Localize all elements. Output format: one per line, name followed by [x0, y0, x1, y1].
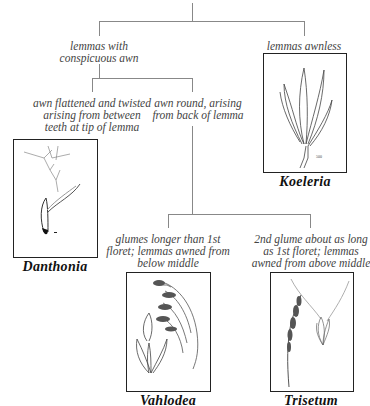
- key-text-line: conspicuous awn: [60, 52, 139, 64]
- key-node-awn-flattened: awn flattened and twisted arising from b…: [33, 97, 151, 133]
- genus-label-koeleria: Koeleria: [279, 174, 330, 190]
- koeleria-illustration-box: 500: [263, 53, 347, 173]
- connector-awned-stem: [99, 64, 100, 78]
- genus-label-danthonia: Danthonia: [23, 259, 88, 275]
- key-node-lemmas-awnless: lemmas awnless: [267, 40, 341, 52]
- key-text-line: arising from between: [33, 109, 151, 121]
- connector-glumes-longer-drop: [168, 214, 169, 228]
- koeleria-spikelet-illustration: 500: [264, 54, 348, 174]
- key-node-awn-round: awn round, arising from back of lemma: [152, 97, 243, 121]
- key-text-line: 2nd glume about as long: [252, 233, 370, 245]
- connector-awned-horizontal: [92, 78, 193, 79]
- danthonia-floret-illustration: [14, 140, 99, 259]
- key-text-line: teeth at tip of lemma: [33, 121, 151, 133]
- connector-round-drop: [192, 78, 193, 92]
- key-text-line: awn flattened and twisted: [33, 97, 151, 109]
- connector-root-horizontal: [99, 21, 305, 22]
- key-text-line: from back of lemma: [152, 109, 243, 121]
- key-text-line: awn round, arising: [152, 97, 243, 109]
- vahlodea-illustration-box: [126, 272, 211, 392]
- key-text-line: lemmas with: [60, 40, 139, 52]
- connector-2nd-glume-drop: [310, 214, 311, 228]
- key-node-glumes-longer: glumes longer than 1st floret; lemmas aw…: [106, 233, 229, 269]
- key-text-line: floret; lemmas awned from: [106, 245, 229, 257]
- connector-awned-drop: [99, 21, 100, 36]
- genus-label-trisetum: Trisetum: [284, 393, 338, 406]
- key-text-line: awned from above middle: [252, 257, 370, 269]
- connector-root-stem: [192, 3, 193, 21]
- connector-flattened-drop: [92, 78, 93, 92]
- key-node-lemmas-with-awn: lemmas with conspicuous awn: [60, 40, 139, 64]
- key-text-line: as 1st floret; lemmas: [252, 245, 370, 257]
- trisetum-panicle-illustration: [271, 273, 355, 393]
- key-text-line: glumes longer than 1st: [106, 233, 229, 245]
- trisetum-illustration-box: [270, 272, 354, 392]
- connector-round-stem: [192, 126, 193, 214]
- connector-awnless-drop: [304, 21, 305, 36]
- key-text-line: below middle: [106, 257, 229, 269]
- svg-text:500: 500: [316, 154, 322, 159]
- danthonia-illustration-box: [13, 139, 98, 258]
- vahlodea-panicle-illustration: [127, 273, 212, 393]
- key-text-line: lemmas awnless: [267, 40, 341, 52]
- genus-label-vahlodea: Vahlodea: [140, 393, 196, 406]
- key-node-2nd-glume: 2nd glume about as long as 1st floret; l…: [252, 233, 370, 269]
- connector-round-horizontal: [168, 214, 311, 215]
